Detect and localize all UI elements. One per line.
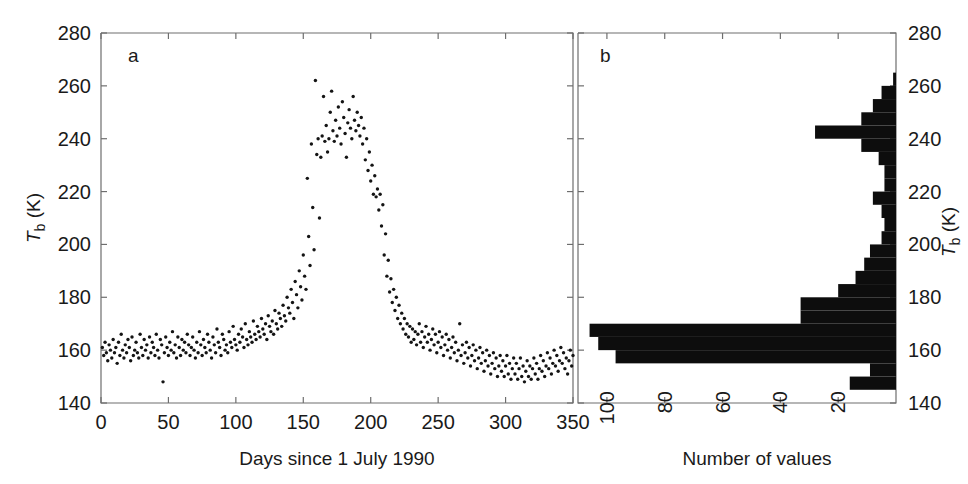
scatter-point (199, 343, 202, 346)
scatter-point (136, 351, 139, 354)
scatter-point (213, 343, 216, 346)
scatter-point (110, 356, 113, 359)
scatter-point (272, 333, 275, 336)
scatter-point (298, 269, 301, 272)
scatter-point (160, 343, 163, 346)
scatter-point (539, 354, 542, 357)
scatter-point (423, 335, 426, 338)
scatter-point (245, 338, 248, 341)
scatter-point (415, 343, 418, 346)
panel-b-x-tick-label: 100 (596, 391, 618, 424)
scatter-point (203, 346, 206, 349)
scatter-point (439, 346, 442, 349)
scatter-point (500, 370, 503, 373)
scatter-point (217, 341, 220, 344)
panel-b-y-tick-label: 160 (908, 339, 941, 361)
scatter-point (312, 248, 315, 251)
scatter-point (527, 375, 530, 378)
scatter-point (223, 348, 226, 351)
scatter-point (145, 343, 148, 346)
panel-b-y-tick-label: 220 (908, 181, 941, 203)
scatter-point (103, 341, 106, 344)
scatter-point (440, 335, 443, 338)
scatter-point (459, 354, 462, 357)
scatter-point (122, 356, 125, 359)
scatter-point (481, 351, 484, 354)
scatter-point (275, 322, 278, 325)
scatter-point (180, 338, 183, 341)
scatter-point (442, 354, 445, 357)
scatter-point (396, 317, 399, 320)
scatter-point (269, 330, 272, 333)
scatter-point (391, 301, 394, 304)
scatter-point (296, 306, 299, 309)
panel-b-x-tick-labels: 10080604020 (596, 391, 849, 424)
scatter-point (311, 206, 314, 209)
scatter-point (173, 343, 176, 346)
scatter-point (225, 343, 228, 346)
scatter-point (141, 354, 144, 357)
scatter-point (322, 95, 325, 98)
scatter-point (234, 343, 237, 346)
scatter-point (565, 356, 568, 359)
histogram-bar (882, 205, 896, 218)
scatter-point (536, 378, 539, 381)
scatter-point (202, 338, 205, 341)
panel-b-y-tick-labels: 140160180200220240260280 (908, 22, 941, 414)
scatter-point (368, 150, 371, 153)
scatter-point (378, 193, 381, 196)
scatter-point (381, 203, 384, 206)
scatter-point (550, 372, 553, 375)
scatter-point (538, 367, 541, 370)
scatter-point (503, 375, 506, 378)
scatter-point (330, 89, 333, 92)
scatter-point (283, 314, 286, 317)
panel-a-y-tick-label: 140 (58, 392, 91, 414)
scatter-point (194, 356, 197, 359)
scatter-point (525, 359, 528, 362)
scatter-point (535, 362, 538, 365)
scatter-point (474, 348, 477, 351)
panel-b-y-tick-label: 140 (908, 392, 941, 414)
panel-b-x-tick-label-group: 40 (769, 391, 791, 413)
scatter-point (556, 370, 559, 373)
histogram-bar (861, 139, 896, 152)
panel-b-x-tick-label: 20 (827, 391, 849, 413)
scatter-point (125, 351, 128, 354)
scatter-point (241, 335, 244, 338)
scatter-point (155, 333, 158, 336)
scatter-point (221, 333, 224, 336)
histogram-bar (850, 377, 896, 390)
panel-a-y-label-subscript: b (32, 223, 48, 231)
scatter-point (480, 362, 483, 365)
panel-a-x-tick-label: 50 (157, 411, 179, 433)
panel-b-y-label-subscript: b (947, 237, 963, 245)
scatter-point (314, 79, 317, 82)
scatter-point (519, 356, 522, 359)
scatter-point (490, 362, 493, 365)
scatter-point (385, 274, 388, 277)
scatter-point (492, 351, 495, 354)
scatter-point (334, 119, 337, 122)
scatter-point (374, 195, 377, 198)
scatter-point (299, 285, 302, 288)
scatter-point (472, 343, 475, 346)
histogram-bar (879, 152, 896, 165)
panel-b-y-tick-label: 180 (908, 286, 941, 308)
scatter-point (144, 348, 147, 351)
histogram-bar (616, 350, 896, 363)
panel-a-scatter-points (101, 79, 575, 384)
panel-b-x-tick-label-group: 100 (596, 391, 618, 424)
scatter-point (291, 301, 294, 304)
scatter-point (342, 116, 345, 119)
scatter-point (230, 346, 233, 349)
figure-container: 050100150200250300350 140160180200220240… (0, 0, 968, 484)
scatter-point (546, 351, 549, 354)
scatter-point (339, 142, 342, 145)
scatter-point (457, 348, 460, 351)
panel-b-histogram-bars (590, 73, 896, 390)
scatter-point (408, 325, 411, 328)
histogram-bar (856, 271, 896, 284)
scatter-point (432, 343, 435, 346)
scatter-point (544, 364, 547, 367)
